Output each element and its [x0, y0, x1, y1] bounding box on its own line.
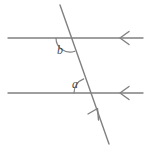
geometry-figure: b a [0, 0, 148, 145]
angle-b-label: b [57, 43, 63, 57]
geometry-diagram-canvas: b a [0, 0, 148, 145]
angle-a-label: a [72, 77, 78, 91]
transversal-line [60, 5, 109, 144]
